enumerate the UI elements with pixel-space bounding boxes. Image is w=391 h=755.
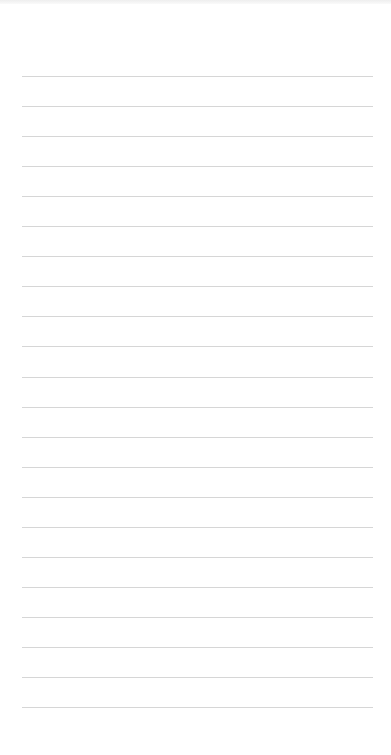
- ruled-line: [22, 527, 373, 528]
- ruled-line: [22, 677, 373, 678]
- ruled-line: [22, 497, 373, 498]
- ruled-line: [22, 286, 373, 287]
- ruled-line: [22, 587, 373, 588]
- ruled-line: [22, 437, 373, 438]
- ruled-line: [22, 467, 373, 468]
- ruled-notepad-page: [0, 0, 391, 755]
- ruled-line: [22, 557, 373, 558]
- ruled-line: [22, 256, 373, 257]
- ruled-line: [22, 226, 373, 227]
- ruled-line: [22, 136, 373, 137]
- ruled-line: [22, 76, 373, 77]
- ruled-line: [22, 407, 373, 408]
- ruled-line: [22, 316, 373, 317]
- ruled-line: [22, 346, 373, 347]
- ruled-line: [22, 106, 373, 107]
- ruled-line: [22, 166, 373, 167]
- ruled-line: [22, 647, 373, 648]
- ruled-line: [22, 617, 373, 618]
- ruled-line: [22, 707, 373, 708]
- ruled-line: [22, 196, 373, 197]
- ruled-line: [22, 377, 373, 378]
